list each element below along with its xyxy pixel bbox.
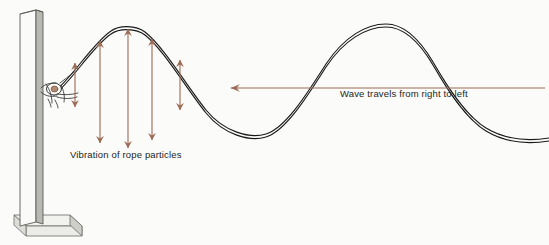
wave-diagram: Vibration of rope particles Wave travels… bbox=[0, 0, 549, 245]
diagram-canvas bbox=[0, 0, 549, 245]
vertical-post bbox=[20, 10, 43, 226]
rope-knot bbox=[41, 72, 78, 108]
vibration-label: Vibration of rope particles bbox=[70, 149, 182, 160]
wave-direction-label: Wave travels from right to left bbox=[340, 88, 468, 99]
vibration-arrows bbox=[75, 29, 180, 148]
